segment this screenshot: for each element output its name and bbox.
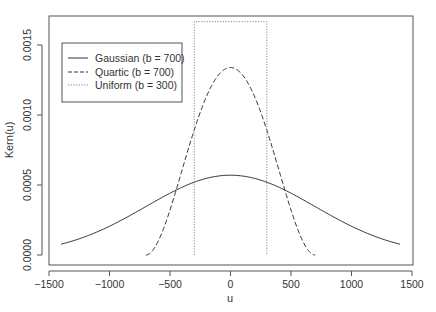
x-tick-label: −1500 — [34, 278, 64, 290]
y-tick-label: 0.0010 — [21, 99, 33, 131]
y-tick-label: 0.0005 — [21, 169, 33, 201]
kernel-density-chart: −1500−1000−500050010001500 0.00000.00050… — [0, 0, 436, 312]
legend-label-gaussian: Gaussian (b = 700) — [95, 52, 185, 64]
legend: Gaussian (b = 700) Quartic (b = 700) Uni… — [62, 43, 185, 102]
x-tick-label: −500 — [158, 278, 182, 290]
series-uniform-line — [194, 22, 267, 255]
y-tick-label: 0.0000 — [21, 239, 33, 271]
legend-label-uniform: Uniform (b = 300) — [95, 79, 177, 91]
y-tick-label: 0.0015 — [21, 29, 33, 61]
x-tick-label: 500 — [282, 278, 300, 290]
x-tick-label: 1500 — [400, 278, 424, 290]
legend-label-quartic: Quartic (b = 700) — [95, 66, 174, 78]
chart-svg: −1500−1000−500050010001500 0.00000.00050… — [0, 0, 436, 312]
series-gaussian-line — [61, 175, 400, 244]
x-axis: −1500−1000−500050010001500 — [34, 271, 424, 290]
x-tick-label: −1000 — [95, 278, 125, 290]
y-axis-label: Kern(u) — [3, 122, 15, 159]
x-axis-label: u — [227, 292, 233, 304]
y-axis: 0.00000.00050.00100.0015 — [21, 29, 42, 271]
x-tick-label: 1000 — [340, 278, 364, 290]
x-tick-label: 0 — [228, 278, 234, 290]
